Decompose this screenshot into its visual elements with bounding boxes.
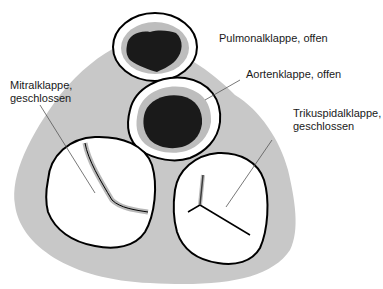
label-mitralklappe-line1: Mitralklappe, xyxy=(10,79,72,92)
aorten-valve xyxy=(128,78,220,161)
label-trikuspidalklappe-line1: Trikuspidalklappe, xyxy=(293,107,381,120)
trikuspidal-valve xyxy=(174,153,268,264)
label-mitralklappe-line2: geschlossen xyxy=(10,92,71,105)
mitral-valve xyxy=(46,137,155,248)
pulmonal-valve xyxy=(113,13,197,81)
label-trikuspidalklappe-line2: geschlossen xyxy=(293,120,354,133)
label-pulmonalklappe: Pulmonalklappe, offen xyxy=(219,32,328,45)
label-aortenklappe: Aortenklappe, offen xyxy=(246,68,341,81)
